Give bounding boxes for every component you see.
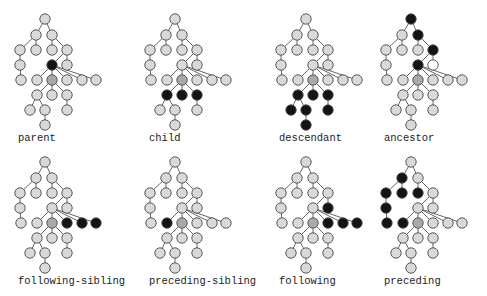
tree-edge [182,208,226,223]
tree-node-selected [293,90,303,100]
tree-node-selected [162,218,172,228]
tree-node-selected [323,90,333,100]
tree-node [25,248,35,258]
tree-node-context [413,75,423,85]
tree-node [47,233,57,243]
panel-label-parent: parent [18,132,56,144]
tree-node [308,60,318,70]
tree-node [146,218,156,228]
tree-node-context [47,75,57,85]
tree-node [155,248,165,258]
tree-node [16,218,26,228]
tree-node-selected [162,90,172,100]
tree-node [47,30,57,40]
tree-node [192,45,202,55]
tree-node [301,263,311,273]
tree-node [292,188,302,198]
tree-panel-descendant [276,14,362,130]
tree-node [292,173,302,183]
tree-node [40,248,50,258]
tree-node [62,105,72,115]
panel-label-preceding: preceding [384,275,441,287]
tree-node [62,75,72,85]
tree-node [428,248,438,258]
tree-node [398,90,408,100]
tree-node [47,203,57,213]
tree-node-selected [323,203,333,213]
tree-node [177,173,187,183]
tree-node [406,120,416,130]
tree-panel-preceding [381,157,467,273]
tree-node [15,203,25,213]
tree-node [177,60,187,70]
tree-node [177,233,187,243]
tree-node [146,75,156,85]
tree-panel-following [276,157,362,273]
tree-node [15,60,25,70]
tree-node [32,233,42,243]
tree-node [170,157,180,167]
tree-node [31,188,41,198]
tree-node [443,75,453,85]
tree-node-context [308,75,318,85]
tree-node [457,218,467,228]
tree-node [428,218,438,228]
tree-node [398,75,408,85]
tree-node [207,75,217,85]
tree-node [221,218,231,228]
tree-node [145,203,155,213]
tree-node [323,60,333,70]
tree-node [391,248,401,258]
tree-node [308,233,318,243]
tree-node [323,45,333,55]
tree-node [457,75,467,85]
tree-edge [182,65,226,80]
tree-node [40,157,50,167]
tree-node [62,45,72,55]
tree-node [161,30,171,40]
tree-node-selected [192,90,202,100]
tree-node [381,45,391,55]
tree-node [170,263,180,273]
tree-node [428,203,438,213]
tree-node [277,218,287,228]
tree-node [301,248,311,258]
tree-node [221,75,231,85]
tree-node [177,30,187,40]
tree-node [406,248,416,258]
tree-panel-following-sibling [15,157,101,273]
panel-label-child: child [149,132,181,144]
panel-label-ancestor: ancestor [384,132,434,144]
tree-node-selected [413,30,423,40]
tree-node [293,75,303,85]
tree-node [170,120,180,130]
tree-node [397,30,407,40]
tree-node [162,233,172,243]
tree-node [32,90,42,100]
tree-node [413,173,423,183]
tree-panel-parent [15,14,101,130]
tree-node-selected [397,173,407,183]
tree-node [15,45,25,55]
tree-node [31,173,41,183]
tree-node [323,188,333,198]
tree-node [47,45,57,55]
tree-node [398,233,408,243]
tree-node [25,105,35,115]
tree-node-selected [381,203,391,213]
tree-node-selected [397,188,407,198]
tree-node [40,105,50,115]
tree-node [293,218,303,228]
tree-node [170,248,180,258]
tree-node [47,188,57,198]
tree-node [308,30,318,40]
tree-node [32,75,42,85]
tree-node [406,157,416,167]
tree-node [155,105,165,115]
tree-node-selected [308,90,318,100]
tree-node [308,203,318,213]
tree-node [308,173,318,183]
tree-node [308,45,318,55]
panel-label-following: following [279,275,336,287]
tree-node-context [177,218,187,228]
